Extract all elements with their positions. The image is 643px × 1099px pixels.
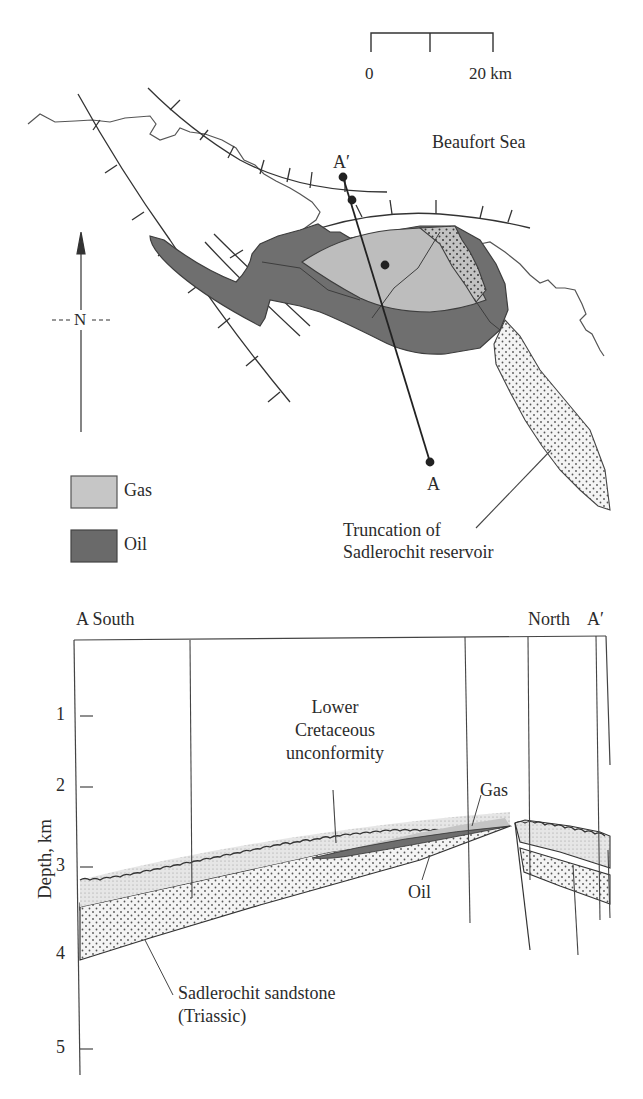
sea-label: Beaufort Sea: [432, 132, 525, 153]
truncation-leader: [476, 450, 551, 528]
truncation-zone: [494, 320, 610, 510]
unconformity-label-1: Lower: [280, 697, 390, 718]
unconformity-label-2: Cretaceous: [270, 720, 400, 741]
section-a-prime-label: A′: [587, 609, 604, 630]
section-start-label: A: [427, 474, 440, 495]
north-label: N: [74, 310, 86, 330]
scale-start-label: 0: [365, 64, 374, 84]
figure-drawing: [0, 0, 643, 1099]
ytick-5: 5: [56, 1037, 65, 1058]
gas-label: Gas: [480, 780, 508, 801]
sandstone-label-1: Sadlerochit sandstone: [178, 983, 335, 1004]
figure: 0 20 km Beaufort Sea A′ A N Truncation o…: [0, 0, 643, 1099]
legend-swatch-gas: [71, 476, 117, 508]
scale-bar: [371, 33, 493, 52]
north-arrow-icon: [52, 232, 110, 432]
ytick-2: 2: [56, 775, 65, 796]
truncation-label-1: Truncation of: [343, 520, 441, 541]
scale-end-label: 20 km: [469, 64, 512, 84]
legend-swatch-oil: [71, 530, 117, 562]
legend-oil-label: Oil: [124, 534, 147, 555]
ytick-3: 3: [56, 855, 65, 876]
unconformity-label-3: unconformity: [265, 743, 405, 764]
legend-gas-label: Gas: [124, 480, 152, 501]
ytick-4: 4: [56, 943, 65, 964]
sandstone-label-2: (Triassic): [178, 1006, 246, 1027]
truncation-label-2: Sadlerochit reservoir: [343, 542, 493, 563]
section-north-label: North: [528, 609, 570, 630]
ytick-1: 1: [56, 704, 65, 725]
section-left-label: A South: [76, 609, 135, 630]
y-axis-label: Depth, km: [34, 809, 56, 909]
oil-label: Oil: [408, 882, 431, 903]
section-end-label: A′: [333, 152, 350, 173]
coastline: [28, 114, 320, 246]
